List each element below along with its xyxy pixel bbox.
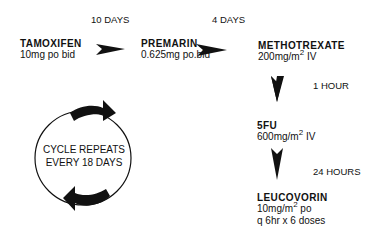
cycle-label: CYCLE REPEATS EVERY 18 DAYS	[40, 143, 128, 169]
drug-name: PREMARIN	[141, 38, 210, 49]
drug-dose: 10mg/m2 po	[257, 203, 328, 215]
cycle-line: CYCLE REPEATS	[40, 143, 128, 156]
drug-premarin: PREMARIN 0.625mg po.bid	[141, 38, 210, 61]
drug-tamoxifen: TAMOXIFEN 10mg po bid	[20, 38, 82, 61]
drug-name: 5FU	[257, 120, 315, 131]
arrow-down-icon	[271, 76, 284, 102]
arrow-down-icon	[271, 148, 283, 180]
drug-dose: 0.625mg po.bid	[141, 49, 210, 61]
drug-dose: 600mg/m2 IV	[257, 131, 315, 143]
interval-label: 1 HOUR	[313, 80, 349, 91]
interval-label: 4 DAYS	[212, 14, 245, 25]
cycle-line: EVERY 18 DAYS	[40, 156, 128, 169]
drug-dose: 200mg/m2 IV	[258, 51, 345, 63]
cycle-arrow-bottom-icon	[63, 186, 110, 211]
drug-leucovorin: LEUCOVORIN 10mg/m2 po q 6hr x 6 doses	[257, 192, 328, 227]
drug-dose: 10mg po bid	[20, 49, 82, 61]
interval-label: 24 HOURS	[313, 166, 361, 177]
arrow-right-icon	[96, 44, 125, 55]
drug-5fu: 5FU 600mg/m2 IV	[257, 120, 315, 143]
drug-dose-schedule: q 6hr x 6 doses	[257, 215, 328, 227]
interval-label: 10 DAYS	[91, 14, 129, 25]
drug-name: TAMOXIFEN	[20, 38, 82, 49]
drug-methotrexate: METHOTREXATE 200mg/m2 IV	[258, 40, 345, 63]
